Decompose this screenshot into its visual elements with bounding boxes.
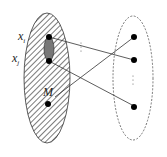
- node-right-2: [131, 57, 137, 63]
- node-xi: [46, 34, 52, 40]
- bipartite-mapping-diagram: xi xj M: [0, 0, 167, 157]
- diagram-canvas: [0, 0, 167, 157]
- ellipsis-middle: [80, 42, 81, 51]
- ellipsis-right: [132, 75, 133, 84]
- cluster-ellipse: [44, 37, 54, 61]
- label-xj: xj: [12, 52, 19, 67]
- left-set-ellipse: [24, 13, 70, 143]
- node-right-3: [131, 104, 137, 110]
- node-m: [45, 101, 51, 107]
- label-m: M: [43, 86, 53, 98]
- label-xi: xi: [18, 30, 25, 45]
- node-xj: [46, 58, 52, 64]
- node-right-1: [131, 34, 137, 40]
